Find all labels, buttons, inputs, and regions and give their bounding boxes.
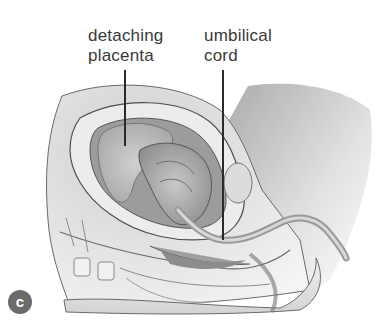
label-line-1: umbilical [204,26,272,46]
vertebra [98,262,114,280]
anatomical-illustration [0,0,389,333]
leader-line-umbilical-cord [222,70,224,240]
bladder [224,163,252,203]
vertebra [74,258,90,276]
leader-line-placenta [124,70,126,146]
label-detaching-placenta: detaching placenta [88,26,164,66]
label-umbilical-cord: umbilical cord [204,26,272,66]
label-line-2: placenta [88,46,164,66]
label-line-1: detaching [88,26,164,46]
panel-letter-badge: c [8,290,32,314]
figure-canvas: detaching placenta umbilical cord c [0,0,389,333]
label-line-2: cord [204,46,272,66]
